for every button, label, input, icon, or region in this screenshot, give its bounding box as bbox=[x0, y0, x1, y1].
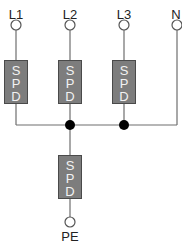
spd-letter: D bbox=[65, 184, 74, 199]
spd-pe: S P D bbox=[59, 156, 82, 200]
spd-l3: S P D bbox=[113, 61, 136, 105]
junction-dot-icon bbox=[119, 120, 129, 130]
spd-l2: S P D bbox=[59, 61, 82, 105]
terminal-pe-icon bbox=[65, 217, 75, 227]
spd-letter: D bbox=[119, 89, 128, 104]
terminal-label-pe: PE bbox=[61, 229, 79, 244]
terminal-l1-icon bbox=[11, 20, 21, 30]
terminal-n-icon bbox=[172, 20, 182, 30]
spd-l1: S P D bbox=[5, 61, 28, 105]
terminals bbox=[11, 20, 182, 227]
junction-dot-icon bbox=[65, 120, 75, 130]
spd-letter: D bbox=[11, 89, 20, 104]
wires bbox=[16, 30, 177, 217]
terminal-l2-icon bbox=[65, 20, 75, 30]
terminal-l3-icon bbox=[119, 20, 129, 30]
spd-letter: D bbox=[65, 89, 74, 104]
spd-wiring-diagram: L1 L2 L3 N S P D S P D S P D bbox=[0, 0, 182, 244]
